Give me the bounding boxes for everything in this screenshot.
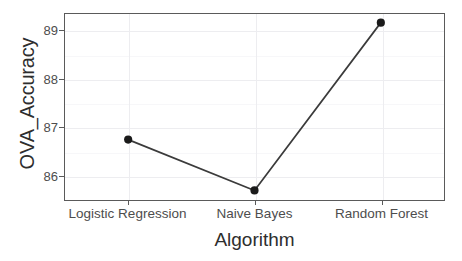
x-axis-tick-label: Naive Bayes bbox=[217, 206, 293, 221]
y-axis-tick-label: 86 bbox=[28, 168, 58, 183]
y-axis-tick-labels: 86878889 bbox=[28, 0, 58, 261]
y-axis-tick-label: 87 bbox=[28, 120, 58, 135]
x-axis-tick-mark bbox=[255, 200, 256, 205]
x-axis-tick-mark bbox=[382, 200, 383, 205]
x-axis-title: Algorithm bbox=[64, 229, 445, 251]
y-axis-tick-label: 89 bbox=[28, 23, 58, 38]
plot-panel: Logistic Regression: 86.74Naive Bayes: 8… bbox=[64, 13, 445, 201]
series-line bbox=[128, 23, 381, 191]
x-axis-tick-label: Logistic Regression bbox=[69, 206, 187, 221]
y-axis-tick-label: 88 bbox=[28, 71, 58, 86]
data-point-marker: Random Forest: 89.18 bbox=[377, 19, 385, 27]
x-axis-tick-label: Random Forest bbox=[335, 206, 428, 221]
data-point-marker: Logistic Regression: 86.74 bbox=[124, 136, 132, 144]
line-chart: OVA_Accuracy 86878889 Logistic Regressio… bbox=[0, 0, 462, 261]
x-axis-tick-mark bbox=[128, 200, 129, 205]
data-series-layer: Logistic Regression: 86.74Naive Bayes: 8… bbox=[65, 14, 444, 200]
data-point-marker: Naive Bayes: 85.68 bbox=[250, 186, 258, 194]
